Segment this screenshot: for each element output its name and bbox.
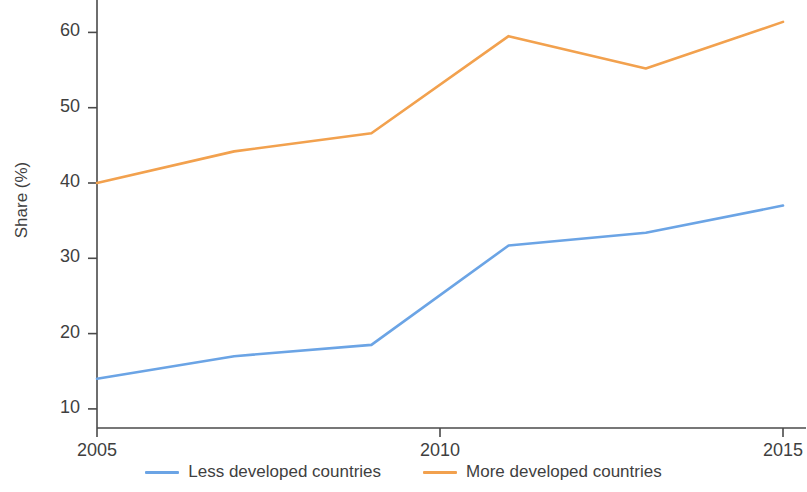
legend-item[interactable]: Less developed countries bbox=[145, 462, 381, 482]
series-line bbox=[97, 206, 783, 379]
series-polylines bbox=[97, 22, 783, 379]
y-axis-tick-label: 10 bbox=[26, 397, 80, 418]
x-axis-tick-label: 2015 bbox=[738, 440, 807, 461]
x-axis-ticks bbox=[97, 428, 783, 437]
legend-label: Less developed countries bbox=[188, 462, 381, 482]
y-axis-label: Share (%) bbox=[12, 140, 32, 260]
chart-plot-area bbox=[0, 0, 807, 492]
legend-line-swatch-icon bbox=[145, 471, 179, 474]
line-chart: Share (%) 102030405060 200520102015 Less… bbox=[0, 0, 807, 492]
x-axis-tick-label: 2010 bbox=[395, 440, 485, 461]
series-line bbox=[97, 22, 783, 183]
y-axis-ticks bbox=[88, 32, 97, 409]
y-axis-tick-label: 60 bbox=[26, 20, 80, 41]
y-axis-tick-label: 50 bbox=[26, 96, 80, 117]
legend-label: More developed countries bbox=[466, 462, 662, 482]
axis-lines bbox=[97, 0, 806, 428]
y-axis-tick-label: 30 bbox=[26, 246, 80, 267]
legend-item[interactable]: More developed countries bbox=[423, 462, 662, 482]
y-axis-tick-label: 40 bbox=[26, 171, 80, 192]
x-axis-tick-label: 2005 bbox=[52, 440, 142, 461]
chart-legend: Less developed countriesMore developed c… bbox=[0, 462, 807, 482]
legend-line-swatch-icon bbox=[423, 471, 457, 474]
y-axis-tick-label: 20 bbox=[26, 322, 80, 343]
